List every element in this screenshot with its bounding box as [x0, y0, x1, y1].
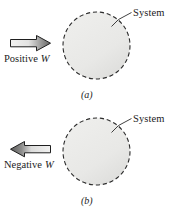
positive-work-arrow	[11, 36, 51, 51]
work-label-b: NegativeW	[4, 160, 54, 171]
panel-b: System NegativeW (b)	[0, 106, 176, 212]
system-boundary-circle	[63, 12, 130, 79]
system-boundary-circle	[63, 118, 130, 185]
system-label-b: System	[133, 114, 165, 125]
negative-work-arrow	[11, 142, 51, 157]
work-symbol-a: W	[38, 53, 50, 64]
work-symbol-b: W	[42, 159, 54, 170]
work-label-a: PositiveW	[4, 54, 50, 65]
caption-b: (b)	[81, 196, 93, 206]
caption-a: (a)	[81, 90, 93, 100]
panel-a: System PositiveW (a)	[0, 0, 176, 106]
work-label-b-text: Negative	[4, 159, 42, 170]
work-sign-convention-figure: System PositiveW (a)	[0, 0, 176, 212]
system-label-a: System	[133, 8, 165, 19]
work-label-a-text: Positive	[4, 53, 38, 64]
